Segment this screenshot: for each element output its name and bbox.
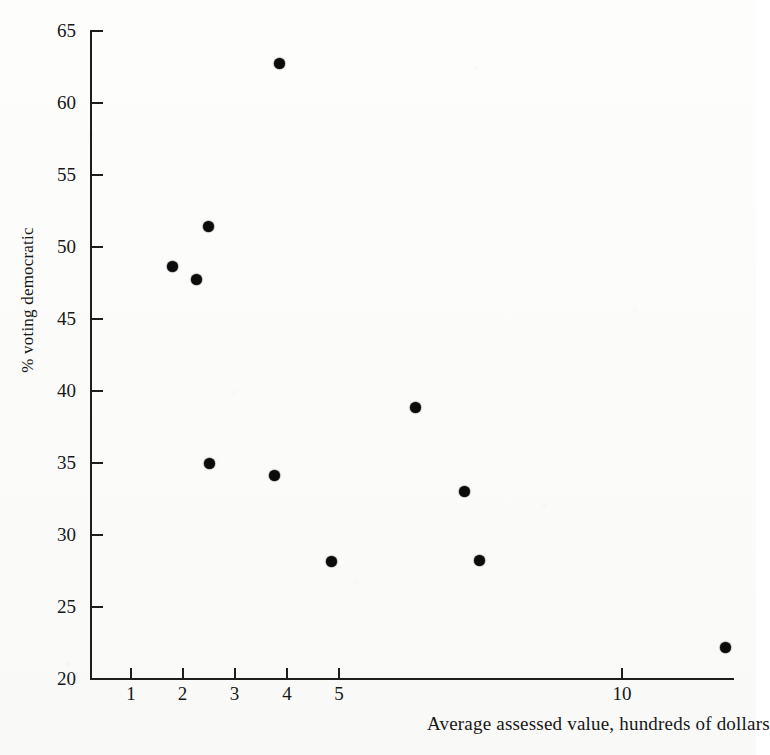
x-axis-title: Average assessed value, hundreds of doll… xyxy=(427,713,770,735)
data-point xyxy=(720,642,731,653)
x-tick-label: 10 xyxy=(602,683,642,705)
y-tick-mark xyxy=(92,102,103,104)
y-tick-label: 35 xyxy=(32,452,76,474)
y-tick-mark xyxy=(92,606,103,608)
y-tick-label: 30 xyxy=(32,524,76,546)
data-point xyxy=(204,458,215,469)
y-tick-mark xyxy=(92,30,103,32)
x-tick-mark xyxy=(234,668,236,679)
y-tick-mark xyxy=(92,174,103,176)
y-tick-label: 20 xyxy=(32,668,76,690)
y-tick-mark xyxy=(92,534,103,536)
x-tick-mark xyxy=(130,668,132,679)
y-tick-mark xyxy=(92,390,103,392)
y-tick-label: 55 xyxy=(32,164,76,186)
y-tick-label: 45 xyxy=(32,308,76,330)
data-point xyxy=(326,556,337,567)
data-point xyxy=(269,470,280,481)
x-tick-label: 3 xyxy=(215,683,255,705)
data-point xyxy=(410,402,421,413)
y-tick-label: 50 xyxy=(32,236,76,258)
y-axis-title: % voting democratic xyxy=(18,227,38,372)
y-tick-label: 60 xyxy=(32,92,76,114)
data-point xyxy=(191,274,202,285)
y-tick-label: 25 xyxy=(32,596,76,618)
x-tick-label: 1 xyxy=(111,683,151,705)
y-tick-label: 65 xyxy=(32,20,76,42)
data-point xyxy=(459,486,470,497)
x-tick-mark xyxy=(182,668,184,679)
data-point xyxy=(167,261,178,272)
y-axis-line xyxy=(90,30,92,680)
data-point xyxy=(274,58,285,69)
y-tick-mark xyxy=(92,246,103,248)
x-tick-label: 2 xyxy=(163,683,203,705)
data-point xyxy=(474,555,485,566)
x-axis-line xyxy=(91,678,734,680)
data-point xyxy=(203,221,214,232)
x-tick-mark xyxy=(621,668,623,679)
x-tick-mark xyxy=(286,668,288,679)
y-tick-mark xyxy=(92,318,103,320)
y-tick-mark xyxy=(92,462,103,464)
y-tick-label: 40 xyxy=(32,380,76,402)
x-tick-label: 5 xyxy=(319,683,359,705)
x-tick-label: 4 xyxy=(267,683,307,705)
x-tick-mark xyxy=(338,668,340,679)
